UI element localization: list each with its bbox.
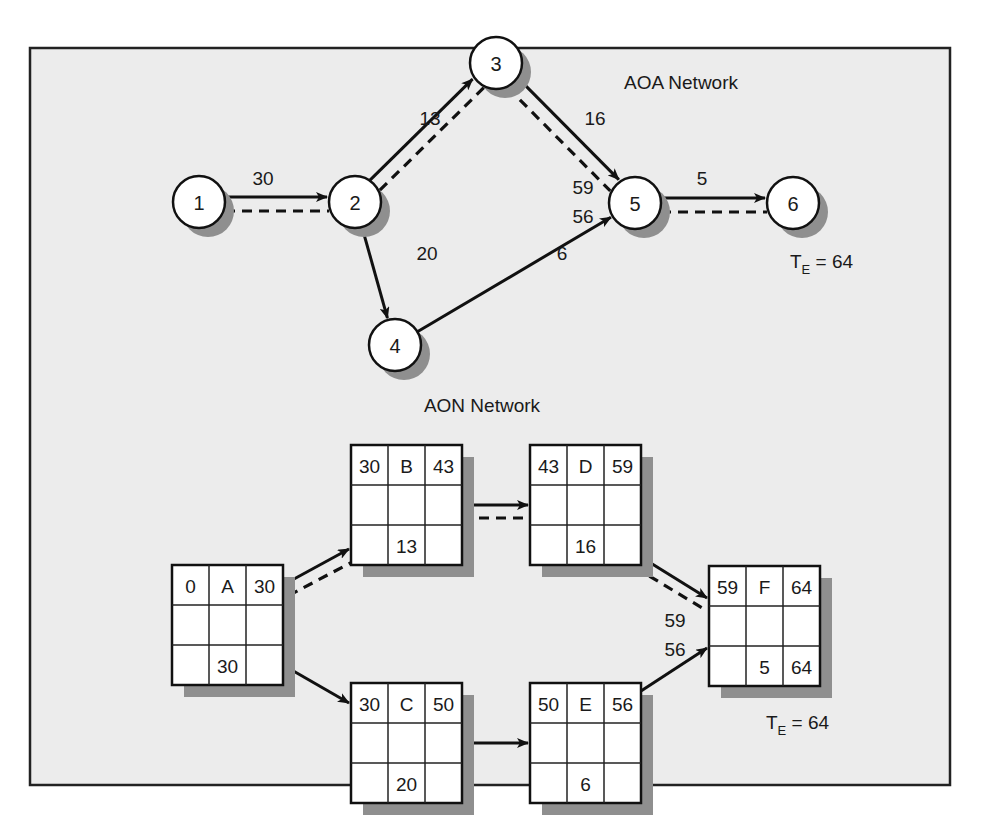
activity-duration: 13 (396, 536, 417, 557)
activity-name: D (579, 456, 593, 477)
late-finish: 64 (791, 657, 813, 678)
activity-box-B: 30B4313 (351, 445, 474, 577)
early-finish: 59 (612, 456, 633, 477)
activity-box-D: 43D5916 (530, 445, 653, 577)
event-node-label: 2 (349, 192, 360, 214)
activity-duration-label: 16 (584, 108, 605, 129)
early-finish: 30 (254, 576, 275, 597)
early-start: 43 (538, 456, 559, 477)
activity-box-E: 50E566 (530, 683, 653, 815)
event-node-label: 4 (389, 335, 400, 357)
early-start: 59 (717, 577, 738, 598)
event-node-label: 5 (629, 193, 640, 215)
activity-duration-label: 30 (252, 168, 273, 189)
early-start: 50 (538, 694, 559, 715)
path-total-label: 56 (664, 639, 685, 660)
activity-name: C (400, 694, 414, 715)
te-symbol: T (766, 712, 778, 733)
early-finish: 43 (433, 456, 454, 477)
te-value: = 64 (786, 712, 829, 733)
network-diagram: 123456 30132016655956 AOA Network AON Ne… (0, 0, 985, 838)
activity-box-A: 0A3030 (172, 565, 295, 697)
activity-duration: 5 (759, 657, 770, 678)
pert-network-figure: 123456 30132016655956 AOA Network AON Ne… (0, 0, 985, 838)
event-node-label: 3 (490, 53, 501, 75)
aon-network-title: AON Network (424, 395, 541, 416)
activity-name: B (400, 456, 413, 477)
path-total-label: 56 (572, 206, 593, 227)
activity-duration-label: 20 (416, 243, 437, 264)
activity-duration: 20 (396, 774, 417, 795)
early-finish: 64 (791, 577, 813, 598)
early-start: 30 (359, 456, 380, 477)
early-start: 0 (185, 576, 196, 597)
activity-duration-label: 6 (557, 243, 568, 264)
activity-name: A (221, 576, 234, 597)
activity-duration: 30 (217, 656, 238, 677)
early-finish: 50 (433, 694, 454, 715)
early-finish: 56 (612, 694, 633, 715)
activity-name: F (759, 577, 771, 598)
te-symbol: T (790, 251, 802, 272)
aoa-network-title: AOA Network (624, 72, 739, 93)
te-value: = 64 (810, 251, 853, 272)
event-node-label: 6 (787, 193, 798, 215)
activity-duration: 16 (575, 536, 596, 557)
event-node-label: 1 (193, 192, 204, 214)
path-total-label: 59 (572, 177, 593, 198)
te-subscript: E (802, 262, 811, 277)
activity-duration: 6 (580, 774, 591, 795)
activity-name: E (579, 694, 592, 715)
path-total-label: 59 (664, 610, 685, 631)
activity-box-F: 59F64564 (709, 566, 832, 698)
activity-duration-label: 13 (419, 108, 440, 129)
early-start: 30 (359, 694, 380, 715)
activity-box-C: 30C5020 (351, 683, 474, 815)
te-subscript: E (778, 723, 787, 738)
activity-duration-label: 5 (697, 168, 708, 189)
